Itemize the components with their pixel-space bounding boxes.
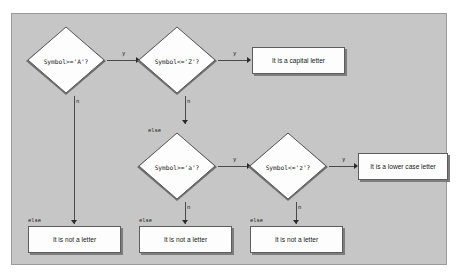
diamond-shape-icon xyxy=(24,25,108,97)
result-box-not-a-letter-1[interactable]: It is not a letter xyxy=(28,226,121,253)
result-box-label: It is not a letter xyxy=(275,236,318,243)
edge-label-d4-yes: y xyxy=(342,156,345,162)
result-box-label: It is a capital letter xyxy=(272,57,325,64)
result-box-not-a-letter-3[interactable]: It is not a letter xyxy=(250,226,343,253)
edge-d2-yes-arrowhead xyxy=(247,57,251,63)
result-box-label: It is a lower case letter xyxy=(370,163,436,170)
screenshot-root: Symbol>='A'? Symbol<='Z'? Symbol>='a'? S… xyxy=(0,0,460,277)
edge-label-d1-no: n xyxy=(76,98,79,104)
diamond-shape-icon xyxy=(135,131,219,203)
edge-d3-no-arrowhead xyxy=(182,220,188,224)
edge-d4-no-arrowhead xyxy=(293,220,299,224)
result-box-label: It is not a letter xyxy=(164,236,207,243)
edge-label-d2-yes: y xyxy=(233,50,236,56)
edge-label-d2-no: n xyxy=(187,98,190,104)
decision-node-symbol-ge-a[interactable]: Symbol>='a'? xyxy=(135,131,219,203)
edge-d4-yes-line xyxy=(329,166,357,167)
result-box-capital-letter[interactable]: It is a capital letter xyxy=(252,47,345,74)
edge-d2-yes-line xyxy=(218,60,250,61)
edge-label-else-box-1: else xyxy=(28,217,41,223)
decision-node-symbol-ge-A[interactable]: Symbol>='A'? xyxy=(24,25,108,97)
edge-label-else-box-2: else xyxy=(139,217,152,223)
result-box-label: It is not a letter xyxy=(53,236,96,243)
edge-label-d3-yes: y xyxy=(233,156,236,162)
decision-node-symbol-le-Z[interactable]: Symbol<='Z'? xyxy=(135,25,219,97)
edge-label-d3-no: n xyxy=(187,204,190,210)
edge-label-else-box-3: else xyxy=(250,217,263,223)
edge-label-d1-yes: y xyxy=(122,50,125,56)
diamond-shape-icon xyxy=(246,131,330,203)
decision-node-symbol-le-z[interactable]: Symbol<='z'? xyxy=(246,131,330,203)
result-box-not-a-letter-2[interactable]: It is not a letter xyxy=(139,226,232,253)
diagram-canvas: Symbol>='A'? Symbol<='Z'? Symbol>='a'? S… xyxy=(11,13,447,265)
edge-d1-no-arrowhead xyxy=(71,220,77,224)
edge-label-d4-no: n xyxy=(298,204,301,210)
result-box-lower-case-letter[interactable]: It is a lower case letter xyxy=(358,153,448,180)
edge-d2-no-arrowhead xyxy=(182,120,188,124)
edge-d1-no-line xyxy=(74,96,75,224)
diamond-shape-icon xyxy=(135,25,219,97)
